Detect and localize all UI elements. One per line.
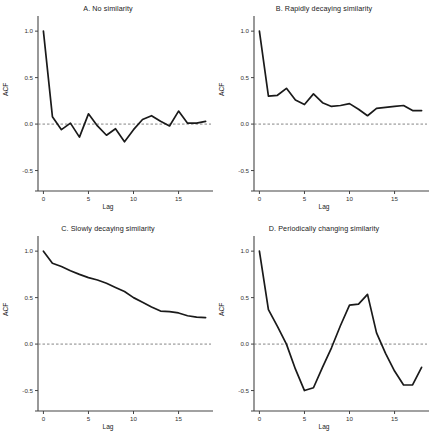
panel-c: C. Slowly decaying similarity 1.00.50.0-… xyxy=(0,220,216,440)
x-tick-label: 15 xyxy=(175,195,182,202)
x-tick-label: 0 xyxy=(42,415,46,422)
y-tick-label: -0.5 xyxy=(238,387,249,394)
y-tick-label: 1.0 xyxy=(240,27,249,34)
panel-b-plot: 1.00.50.0-0.5051015 xyxy=(216,0,432,220)
x-tick-label: 0 xyxy=(258,415,262,422)
y-tick-label: 0.0 xyxy=(24,340,33,347)
x-tick-label: 5 xyxy=(87,415,91,422)
panel-a-plot: 1.00.50.0-0.5051015 xyxy=(0,0,216,220)
y-tick-label: 0.5 xyxy=(24,74,33,81)
x-tick-label: 0 xyxy=(42,195,46,202)
panel-c-ylabel: ACF xyxy=(2,303,9,316)
y-tick-label: 1.0 xyxy=(240,247,249,254)
panel-a-ylabel: ACF xyxy=(2,83,9,96)
y-tick-label: 0.5 xyxy=(240,294,249,301)
panel-c-xlabel: Lag xyxy=(0,423,216,430)
acf-panel-figure: A. No similarity 1.00.50.0-0.5051015 ACF… xyxy=(0,0,432,440)
acf-series-line xyxy=(43,31,205,142)
y-tick-label: -0.5 xyxy=(238,167,249,174)
x-tick-label: 15 xyxy=(391,195,398,202)
panel-b-xlabel: Lag xyxy=(216,203,432,210)
y-tick-label: 0.0 xyxy=(240,340,249,347)
x-tick-label: 15 xyxy=(175,415,182,422)
x-tick-label: 10 xyxy=(346,195,353,202)
x-tick-label: 0 xyxy=(258,195,262,202)
panel-d: D. Periodically changing similarity 1.00… xyxy=(216,220,432,440)
y-tick-label: -0.5 xyxy=(22,167,33,174)
y-tick-label: 0.5 xyxy=(240,74,249,81)
x-tick-label: 5 xyxy=(87,195,91,202)
acf-series-line xyxy=(43,251,205,317)
y-tick-label: 0.5 xyxy=(24,294,33,301)
y-tick-label: 1.0 xyxy=(24,27,33,34)
y-tick-label: 1.0 xyxy=(24,247,33,254)
acf-series-line xyxy=(259,31,421,116)
panel-b: B. Rapidly decaying similarity 1.00.50.0… xyxy=(216,0,432,220)
x-tick-label: 5 xyxy=(303,415,307,422)
panel-d-ylabel: ACF xyxy=(218,303,225,316)
x-tick-label: 10 xyxy=(346,415,353,422)
x-tick-label: 10 xyxy=(130,415,137,422)
panel-a-xlabel: Lag xyxy=(0,203,216,210)
acf-series-line xyxy=(259,251,421,390)
y-tick-label: 0.0 xyxy=(24,120,33,127)
panel-a: A. No similarity 1.00.50.0-0.5051015 ACF… xyxy=(0,0,216,220)
panel-d-xlabel: Lag xyxy=(216,423,432,430)
panel-c-plot: 1.00.50.0-0.5051015 xyxy=(0,220,216,440)
y-tick-label: 0.0 xyxy=(240,120,249,127)
y-tick-label: -0.5 xyxy=(22,387,33,394)
x-tick-label: 15 xyxy=(391,415,398,422)
panel-d-plot: 1.00.50.0-0.5051015 xyxy=(216,220,432,440)
x-tick-label: 5 xyxy=(303,195,307,202)
panel-b-ylabel: ACF xyxy=(218,83,225,96)
x-tick-label: 10 xyxy=(130,195,137,202)
